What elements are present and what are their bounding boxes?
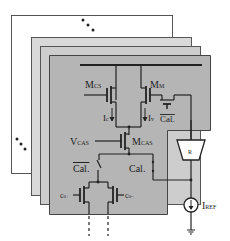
cal-bar-left-label: Cal. bbox=[73, 163, 89, 174]
cal-right-label: Cal. bbox=[129, 163, 145, 174]
cal-bar-top-label: Cal. bbox=[160, 114, 175, 124]
r-block-label: R bbox=[188, 149, 192, 155]
ground-icon bbox=[187, 230, 195, 234]
iref-label: IREF bbox=[202, 200, 217, 211]
circuit-diagram: MCS MM Ic Iv Cal. VCAS MCAS Cal. Cal. c0… bbox=[0, 0, 230, 241]
